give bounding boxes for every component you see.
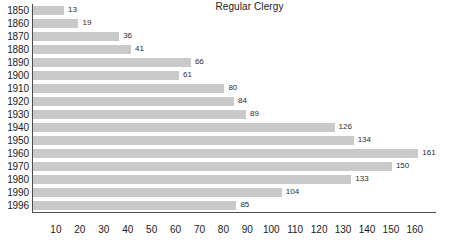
bar-value-label: 13 — [68, 5, 77, 14]
bar-value-label: 134 — [358, 135, 371, 144]
bar — [33, 136, 354, 145]
y-axis-tick-label: 1880 — [0, 44, 29, 55]
bar-value-label: 85 — [240, 200, 249, 209]
x-axis-line — [32, 212, 436, 213]
bar-row: 41 — [32, 43, 434, 56]
bar-row: 80 — [32, 82, 434, 95]
x-axis-tick-label: 160 — [400, 224, 430, 235]
y-axis-tick-label: 1970 — [0, 161, 29, 172]
bar-row: 84 — [32, 95, 434, 108]
bar-row: 104 — [32, 186, 434, 199]
bar-row: 13 — [32, 4, 434, 17]
y-axis-tick-label: 1940 — [0, 122, 29, 133]
y-axis-tick-label: 1850 — [0, 5, 29, 16]
bar-value-label: 41 — [135, 44, 144, 53]
bar-value-label: 84 — [238, 96, 247, 105]
bar — [33, 123, 335, 132]
bar-value-label: 80 — [228, 83, 237, 92]
bar-row: 126 — [32, 121, 434, 134]
bar — [33, 19, 78, 28]
bar — [33, 6, 64, 15]
bar-row: 66 — [32, 56, 434, 69]
bar-value-label: 36 — [123, 31, 132, 40]
y-axis-tick-label: 1870 — [0, 31, 29, 42]
bar-row: 161 — [32, 147, 434, 160]
bar-row: 61 — [32, 69, 434, 82]
bar — [33, 175, 351, 184]
y-axis-tick-label: 1930 — [0, 109, 29, 120]
bar — [33, 45, 131, 54]
bar-row: 134 — [32, 134, 434, 147]
bar-value-label: 66 — [195, 57, 204, 66]
y-axis-tick-label: 1980 — [0, 174, 29, 185]
bar — [33, 97, 234, 106]
bar — [33, 201, 236, 210]
bar — [33, 188, 282, 197]
bar — [33, 149, 418, 158]
bar — [33, 162, 392, 171]
y-axis-tick-label: 1920 — [0, 96, 29, 107]
bar — [33, 58, 191, 67]
bar-value-label: 61 — [183, 70, 192, 79]
y-axis-tick-label: 1996 — [0, 200, 29, 211]
bar-value-label: 126 — [339, 122, 352, 131]
y-axis-tick-label: 1910 — [0, 83, 29, 94]
bar-row: 36 — [32, 30, 434, 43]
bar-row: 150 — [32, 160, 434, 173]
plot-area: 13193641666180848912613416115013310485 — [32, 4, 434, 212]
bar-row: 89 — [32, 108, 434, 121]
bar-chart: Regular Clergy 1850186018701880189019001… — [0, 0, 451, 245]
bar-value-label: 104 — [286, 187, 299, 196]
bar-value-label: 89 — [250, 109, 259, 118]
y-axis-tick-label: 1890 — [0, 57, 29, 68]
bar — [33, 110, 246, 119]
bar-row: 85 — [32, 199, 434, 212]
bar — [33, 84, 224, 93]
bar-value-label: 161 — [422, 148, 435, 157]
y-axis-tick-label: 1990 — [0, 187, 29, 198]
y-axis-tick-label: 1960 — [0, 148, 29, 159]
y-axis-tick-label: 1900 — [0, 70, 29, 81]
bar-row: 133 — [32, 173, 434, 186]
y-axis-tick-label: 1950 — [0, 135, 29, 146]
bar — [33, 32, 119, 41]
bar-value-label: 19 — [82, 18, 91, 27]
y-axis-tick-label: 1860 — [0, 18, 29, 29]
bar-value-label: 133 — [355, 174, 368, 183]
bar-value-label: 150 — [396, 161, 409, 170]
bar — [33, 71, 179, 80]
bar-row: 19 — [32, 17, 434, 30]
